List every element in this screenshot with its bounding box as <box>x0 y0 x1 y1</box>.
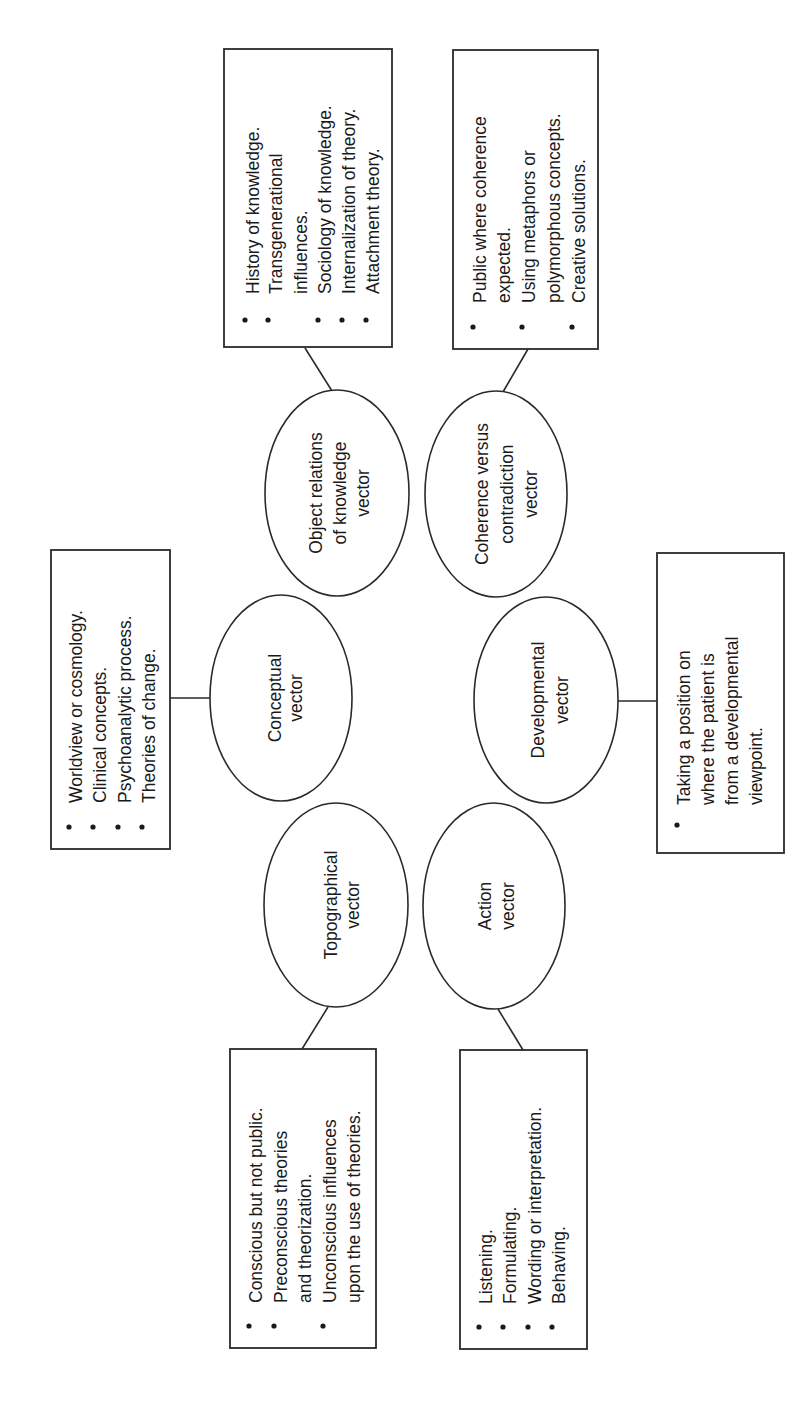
node-developmental: Developmental vector <box>474 597 618 803</box>
node-label: Coherence versus <box>472 423 492 565</box>
bullet-icon <box>271 1323 276 1328</box>
box-item-text: Behaving. <box>549 1226 569 1304</box>
node-conceptual: Conceptual vector <box>210 595 352 801</box>
bullet-icon <box>242 317 247 322</box>
box-item-text: where the patient is <box>698 653 718 806</box>
bullet-icon <box>500 1324 505 1329</box>
bullet-icon <box>519 324 524 329</box>
bullet-icon <box>66 824 71 829</box>
vector-diagram: History of knowledge. Transgenerational … <box>0 0 808 1402</box>
box-item-text: from a developmental <box>722 637 742 805</box>
node-label: Action <box>475 882 495 931</box>
node-label: Developmental <box>528 642 548 759</box>
connector-topographical <box>302 1007 328 1049</box>
box-item-text: Transgenerational <box>266 154 286 294</box>
box-item-text: Creative solutions. <box>569 159 589 303</box>
node-object-relations: Object relations of knowledge vector <box>265 390 409 596</box>
box-item-text: Wording or interpretation. <box>525 1107 545 1304</box>
node-label: vector <box>498 882 518 930</box>
node-label: vector <box>343 881 363 929</box>
box-item-text: Taking a position on <box>674 650 694 805</box>
node-action: Action vector <box>423 803 565 1009</box>
box-item-text: Listening. <box>476 1229 496 1304</box>
node-label: vector <box>521 470 541 518</box>
bullet-icon <box>246 1323 251 1328</box>
box-item-text: Preconscious theories <box>271 1131 291 1303</box>
node-label: vector <box>353 469 373 517</box>
node-label: Conceptual <box>265 654 285 743</box>
connector-object-relations <box>305 348 332 391</box>
box-action: Listening. Formulating. Wording or inter… <box>460 1050 587 1349</box>
node-coherence: Coherence versus contradiction vector <box>425 391 567 597</box>
bullet-icon <box>470 324 475 329</box>
bullet-icon <box>265 317 270 322</box>
box-item-text: influences. <box>291 210 311 294</box>
node-topographical: Topographical vector <box>264 803 408 1007</box>
box-item-text: Clinical concepts. <box>90 667 110 803</box>
box-item-text: Using metaphors or <box>519 150 539 303</box>
bullet-icon <box>139 824 144 829</box>
bullet-icon <box>549 1324 554 1329</box>
bullet-icon <box>674 822 679 827</box>
box-item-text: Attachment theory. <box>363 148 383 294</box>
bullet-icon <box>320 1323 325 1328</box>
bullet-icon <box>339 317 344 322</box>
bullet-icon <box>525 1324 530 1329</box>
node-label: vector <box>552 676 572 724</box>
box-item-text: Worldview or cosmology. <box>66 610 86 803</box>
box-item-text: Psychoanalytic process. <box>115 615 135 803</box>
box-conceptual: Worldview or cosmology. Clinical concept… <box>51 550 170 849</box>
box-item-text: Public where coherence <box>470 116 490 303</box>
bullet-icon <box>363 317 368 322</box>
box-item-text: Internalization of theory. <box>339 109 359 294</box>
box-item-text: viewpoint. <box>746 727 766 805</box>
box-item-text: Unconscious influences <box>320 1119 340 1303</box>
node-label: Object relations <box>306 432 326 554</box>
box-item-text: History of knowledge. <box>243 127 263 294</box>
bullet-icon <box>90 824 95 829</box>
box-topographical: Conscious but not public. Preconscious t… <box>230 1049 376 1348</box>
box-coherence: Public where coherence expected. Using m… <box>453 50 598 349</box>
node-label: Topographical <box>321 851 341 960</box>
box-item-text: polymorphous concepts. <box>544 113 564 303</box>
bullet-icon <box>569 324 574 329</box>
bullet-icon <box>315 317 320 322</box>
box-item-text: Conscious but not public. <box>246 1107 266 1303</box>
box-item-text: Theories of change. <box>139 648 159 803</box>
bullet-icon <box>115 824 120 829</box>
box-object-relations: History of knowledge. Transgenerational … <box>224 49 392 347</box>
box-item-text: expected. <box>494 227 514 303</box>
box-item-text: and theorization. <box>295 1174 315 1303</box>
bullet-icon <box>476 1324 481 1329</box>
box-item-text: upon the use of theories. <box>344 1110 364 1303</box>
box-item-text: Sociology of knowledge. <box>315 105 335 294</box>
node-label: contradiction <box>497 444 517 543</box>
box-item-text: Formulating. <box>500 1207 520 1304</box>
connector-action <box>498 1009 523 1050</box>
connector-coherence <box>503 349 528 392</box>
box-developmental: Taking a position on where the patient i… <box>657 553 784 853</box>
node-label: vector <box>286 674 306 722</box>
node-label: of knowledge <box>330 441 350 544</box>
